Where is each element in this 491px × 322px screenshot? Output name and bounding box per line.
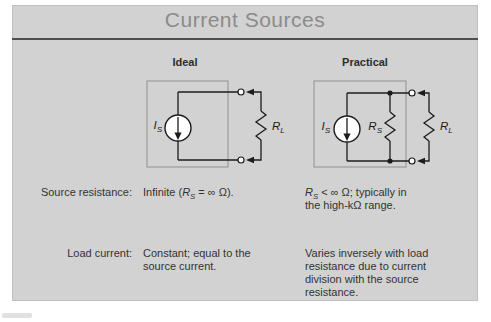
arrowhead-icon <box>246 157 254 163</box>
source-resistance-practical-value: RS < ∞ Ω; typically inthe high-kΩ range. <box>305 186 465 212</box>
ideal-source-current-label: IS <box>144 119 162 131</box>
page: Current Sources Ideal Practical IS RL <box>0 0 491 322</box>
terminal-icon <box>409 90 415 96</box>
terminal-icon <box>238 157 244 163</box>
source-resistance-ideal-value: Infinite (RS = ∞ Ω). <box>143 186 295 199</box>
corner-artifact <box>2 313 32 318</box>
practical-source-current-label: IS <box>312 120 330 132</box>
practical-load-resistor-label: RL <box>440 120 453 132</box>
wire <box>253 140 261 160</box>
junction-dot <box>387 158 392 163</box>
wire <box>253 92 261 111</box>
resistor-icon <box>424 112 434 141</box>
load-current-ideal-value: Constant; equal to thesource current. <box>143 247 288 273</box>
junction-dot <box>387 90 392 95</box>
terminal-icon <box>409 158 415 164</box>
terminal-icon <box>238 89 244 95</box>
resistor-icon <box>385 112 395 141</box>
ideal-load-resistor-label: RL <box>272 120 285 132</box>
slide-title: Current Sources <box>12 8 478 32</box>
source-resistance-row-label: Source resistance: <box>28 186 132 198</box>
load-current-practical-value: Varies inversely with loadresistance due… <box>305 247 467 299</box>
arrowhead-icon <box>246 89 254 95</box>
current-source-icon <box>165 115 191 141</box>
title-rule <box>12 38 478 40</box>
load-current-row-label: Load current: <box>28 247 132 259</box>
column-header-practical: Practical <box>330 56 400 68</box>
arrowhead-icon <box>417 158 425 164</box>
arrowhead-icon <box>417 90 425 96</box>
column-header-ideal: Ideal <box>150 56 220 68</box>
resistor-icon <box>256 111 266 140</box>
current-source-icon <box>334 116 360 142</box>
practical-source-resistor-label: RS <box>361 120 382 132</box>
